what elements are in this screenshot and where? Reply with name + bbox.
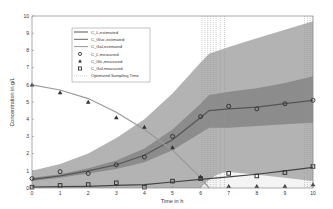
chart: 012345678910 012345678910 Time in h Conc… (0, 0, 333, 209)
y-tick-label: 6 (26, 82, 29, 88)
x-tick-label: 5 (171, 190, 174, 196)
triangle-marker (114, 115, 119, 119)
y-axis: 012345678910 (23, 13, 34, 191)
legend-label: C_Gluc,estimated (91, 37, 125, 42)
triangle-marker (86, 100, 91, 104)
x-tick-label: 10 (310, 190, 316, 196)
y-tick-label: 3 (26, 133, 29, 139)
y-tick-label: 8 (26, 47, 29, 53)
x-tick-label: 6 (199, 190, 202, 196)
y-tick-label: 10 (23, 13, 29, 19)
x-tick-label: 4 (143, 190, 146, 196)
y-tick-label: 0 (26, 185, 29, 191)
legend-label: Optimized Sampling Time (91, 73, 139, 78)
legend-label: C_L,measured (91, 52, 119, 57)
x-tick-label: 2 (87, 190, 90, 196)
legend-label: C_Glc,measured (91, 59, 123, 64)
x-axis-label: Time in h (161, 198, 183, 204)
x-tick-label: 0 (31, 190, 34, 196)
x-tick-label: 3 (115, 190, 118, 196)
x-tick-label: 1 (59, 190, 62, 196)
x-tick-label: 9 (284, 190, 287, 196)
legend-label: C_L,estimated (91, 30, 119, 35)
y-tick-label: 2 (26, 150, 29, 156)
y-tick-label: 9 (26, 30, 29, 36)
y-axis-label: Concentration in g/L (9, 77, 15, 126)
y-tick-label: 1 (26, 168, 29, 174)
y-tick-label: 5 (26, 99, 29, 105)
legend-label: C_Gal,measured (91, 66, 123, 71)
x-tick-label: 7 (227, 190, 230, 196)
x-tick-label: 8 (255, 190, 258, 196)
y-tick-label: 4 (26, 116, 29, 122)
y-tick-label: 7 (26, 64, 29, 70)
legend-label: C_Gal,estimated (91, 44, 123, 49)
legend: C_L,estimatedC_Gluc,estimatedC_Gal,estim… (72, 28, 150, 82)
